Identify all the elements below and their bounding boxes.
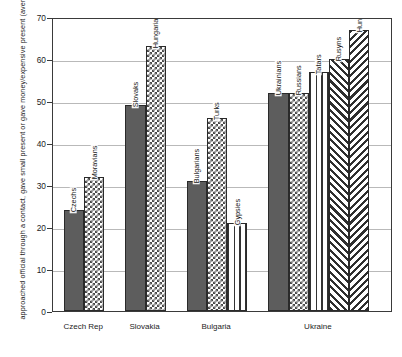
bar-hungarians — [349, 30, 369, 311]
y-tick-label: 0 — [24, 307, 46, 317]
x-group-label-bulgaria: Bulgaria — [201, 322, 230, 331]
y-tick-label: 70 — [24, 13, 46, 23]
bar-ukrainians — [268, 93, 288, 311]
bar-label-ukrainians: Ukrainians — [274, 59, 281, 95]
x-group-label-slovakia: Slovakia — [129, 322, 159, 331]
y-tick-mark — [47, 312, 52, 313]
bar-label-moravians: Moravians — [90, 144, 97, 180]
y-tick-label: 40 — [24, 139, 46, 149]
bar-hungarians — [146, 46, 166, 311]
plot-area: CzechsMoraviansSlovaksHungariansBulgaria… — [52, 18, 392, 312]
bar-label-rusyns: Rusyns — [335, 36, 342, 62]
y-tick-label: 30 — [24, 181, 46, 191]
bar-label-bulgarians: Bulgarians — [193, 148, 200, 184]
bar-label-gypsies: Gypsies — [233, 198, 240, 226]
bar-label-turks: Turks — [213, 101, 220, 121]
bar-bulgarians — [187, 181, 207, 311]
bar-label-russians: Russians — [295, 64, 302, 96]
y-tick-label: 50 — [24, 97, 46, 107]
bar-slovaks — [125, 105, 145, 311]
bar-rusyns — [329, 59, 349, 311]
bar-turks — [207, 118, 227, 311]
bar-russians — [289, 93, 309, 311]
bar-tatars — [309, 72, 329, 311]
bar-czechs — [64, 210, 84, 311]
x-group-label-czech-rep: Czech Rep — [63, 322, 103, 331]
bar-label-tatars: Tatars — [315, 53, 322, 75]
bar-label-slovaks: Slovaks — [131, 81, 138, 109]
bar-chart: approached official through a contact, g… — [0, 0, 402, 357]
bar-label-czechs: Czechs — [70, 187, 77, 213]
bar-label-hungarians: Hungarians — [355, 18, 362, 33]
bar-moravians — [84, 177, 104, 311]
bar-gypsies — [227, 223, 247, 311]
y-tick-label: 10 — [24, 265, 46, 275]
x-group-label-ukraine: Ukraine — [304, 322, 332, 331]
bar-label-hungarians: Hungarians — [152, 18, 159, 50]
y-tick-label: 20 — [24, 223, 46, 233]
y-tick-label: 60 — [24, 55, 46, 65]
